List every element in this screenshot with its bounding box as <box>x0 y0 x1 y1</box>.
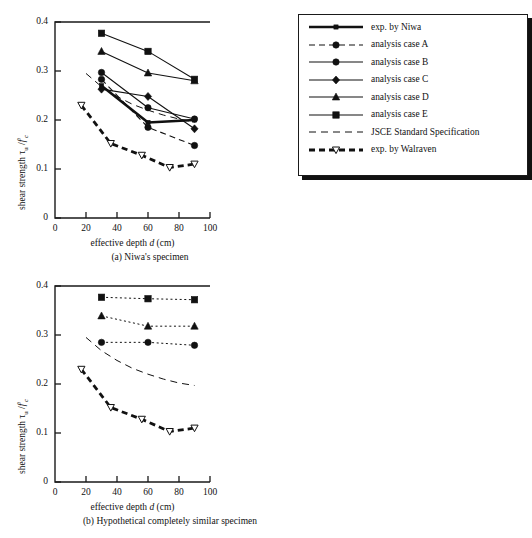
x-axis-tick-label: 80 <box>165 223 193 233</box>
legend-item: JSCE Standard Specification <box>305 123 527 141</box>
x-axis-tick-label: 0 <box>41 487 69 497</box>
legend-item-label: analysis case A <box>367 39 428 49</box>
data-point-marker <box>333 59 339 65</box>
series-line <box>81 369 194 431</box>
legend-line-sample <box>305 53 367 71</box>
data-point-marker <box>98 48 105 55</box>
caption-a: (a) Niwa's specimen <box>0 252 300 262</box>
data-point-marker <box>191 297 197 303</box>
data-series <box>99 84 196 125</box>
data-point-marker <box>144 69 151 76</box>
data-point-marker <box>191 76 197 82</box>
data-point-marker <box>191 342 197 348</box>
legend-line-sample <box>305 123 367 141</box>
legend-item: analysis case E <box>305 106 527 124</box>
data-series <box>98 294 197 303</box>
legend-line-sample <box>305 18 367 36</box>
data-series <box>78 102 198 171</box>
data-series <box>98 339 197 348</box>
legend-item: analysis case D <box>305 88 527 106</box>
data-point-marker <box>333 41 339 47</box>
data-point-marker <box>98 69 104 75</box>
x-axis-tick-label: 20 <box>72 223 100 233</box>
y-axis-tick-label: 0.2 <box>15 378 48 388</box>
data-point-marker <box>145 339 151 345</box>
y-axis-tick-label: 0.4 <box>15 16 48 26</box>
legend-item-label: exp. by Walraven <box>367 144 436 154</box>
y-axis-tick-label: 0.3 <box>15 65 48 75</box>
legend-item: exp. by Walraven <box>305 141 527 159</box>
legend-line-sample <box>305 71 367 89</box>
legend-panel-a: exp. by Niwaanalysis case Aanalysis case… <box>298 14 528 176</box>
chart-panel-b: shear strength τu /f'c effective depth d… <box>0 268 532 538</box>
y-axis-tick-label: 0 <box>15 476 48 486</box>
x-axis-tick-label: 100 <box>196 487 224 497</box>
x-axis-tick-label: 0 <box>41 223 69 233</box>
legend-line-sample <box>305 106 367 124</box>
legend-line-sample <box>305 88 367 106</box>
data-point-marker <box>191 142 197 148</box>
x-axis-tick-label: 40 <box>103 487 131 497</box>
data-point-marker <box>98 76 104 82</box>
x-axis-tick-label: 20 <box>72 487 100 497</box>
legend-item-label: analysis case E <box>367 109 428 119</box>
x-axis-tick-label: 80 <box>165 487 193 497</box>
figure-size-effect-shear-strength: shear strength τu /f'c effective depth d… <box>0 0 532 538</box>
y-axis-tick-label: 0.4 <box>15 280 48 290</box>
series-line <box>102 51 195 80</box>
legend-line-sample <box>305 141 367 159</box>
legend-rows-a: exp. by Niwaanalysis case Aanalysis case… <box>299 15 527 158</box>
data-point-marker <box>145 48 151 54</box>
data-point-marker <box>332 76 339 84</box>
data-point-marker <box>98 339 104 345</box>
legend-line-sample <box>305 36 367 54</box>
plot-area-b <box>0 268 532 538</box>
legend-item: analysis case C <box>305 71 527 89</box>
data-point-marker <box>144 322 151 329</box>
chart-panel-a: shear strength τu /f'c effective depth d… <box>0 0 532 268</box>
y-axis-tick-label: 0 <box>15 212 48 222</box>
y-axis-tick-label: 0.2 <box>15 114 48 124</box>
y-axis-tick-label: 0.1 <box>15 427 48 437</box>
data-point-marker <box>98 30 104 36</box>
legend-item-label: analysis case B <box>367 57 428 67</box>
caption-b: (b) Hypothetical completely similar spec… <box>0 516 340 526</box>
data-point-marker <box>144 92 151 100</box>
data-point-marker <box>98 312 105 319</box>
legend-item-label: exp. by Niwa <box>367 22 421 32</box>
data-series <box>78 366 198 435</box>
data-point-marker <box>333 111 339 117</box>
legend-item-label: JSCE Standard Specification <box>367 127 479 137</box>
legend-item: analysis case A <box>305 36 527 54</box>
data-series <box>98 312 198 329</box>
y-axis-tick-label: 0.1 <box>15 163 48 173</box>
x-axis-title-b: effective depth d (cm) <box>55 502 210 512</box>
x-axis-tick-label: 100 <box>196 223 224 233</box>
x-axis-tick-label: 60 <box>134 487 162 497</box>
legend-item: analysis case B <box>305 53 527 71</box>
x-axis-tick-label: 60 <box>134 223 162 233</box>
data-point-marker <box>191 125 198 133</box>
data-series <box>98 76 197 149</box>
data-point-marker <box>145 296 151 302</box>
legend-item: exp. by Niwa <box>305 18 527 36</box>
data-point-marker <box>98 294 104 300</box>
data-point-marker <box>191 116 197 122</box>
series-line <box>102 79 195 145</box>
y-axis-tick-label: 0.3 <box>15 329 48 339</box>
data-point-marker <box>191 322 198 329</box>
legend-item-label: analysis case D <box>367 92 429 102</box>
x-axis-title-a: effective depth d (cm) <box>55 238 210 248</box>
x-axis-tick-label: 40 <box>103 223 131 233</box>
data-point-marker <box>334 25 338 29</box>
data-point-marker <box>145 124 151 130</box>
legend-item-label: analysis case C <box>367 74 428 84</box>
